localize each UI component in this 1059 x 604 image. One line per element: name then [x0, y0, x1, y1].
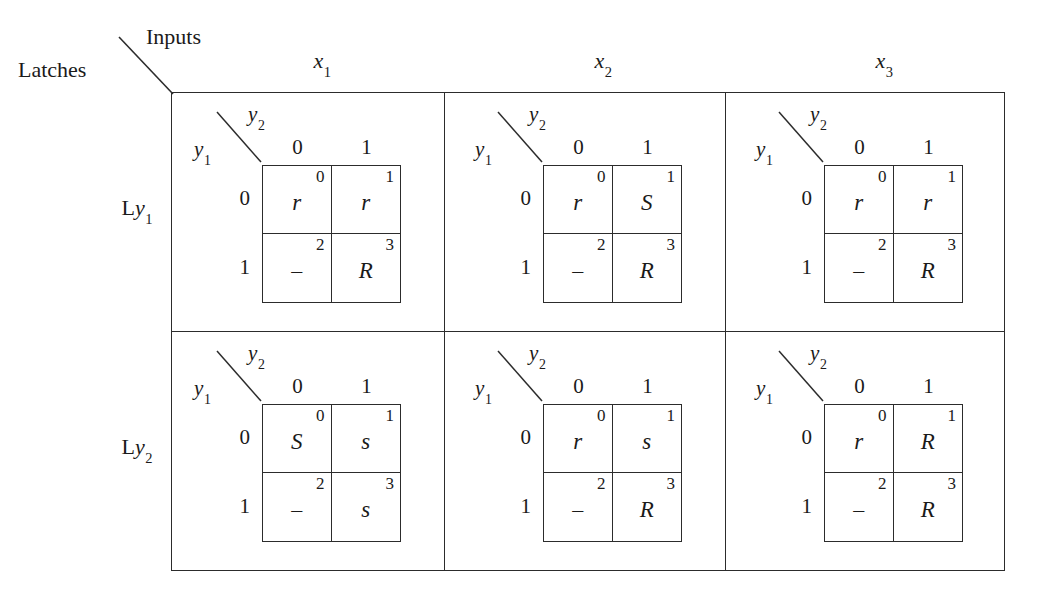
kmap-cell-0[interactable]: 0S: [263, 405, 332, 473]
kmap-cell-1[interactable]: 1S: [613, 166, 682, 234]
kmap-axis-label-y1: y1: [475, 137, 491, 162]
kmap-cell-index: 0: [597, 406, 606, 426]
kmap-cell-index: 3: [386, 474, 395, 494]
kmap-Ly1-x2: y2y101010r1S2–3R: [453, 93, 725, 331]
kmap-cell-index: 1: [386, 406, 395, 426]
row-label-latch-y1-prefix: L: [122, 195, 135, 220]
kmap-Ly1-x1: y2y101010r1r2–3R: [172, 93, 444, 331]
kmap-col-label-1: 1: [332, 135, 401, 160]
kmap-axis-label-y1: y1: [194, 376, 210, 401]
kmap-Ly2-x1: y2y101010S1s2–3s: [172, 332, 444, 570]
row-label-latch-y1-name: y: [135, 195, 145, 220]
kmap-axis-label-y2-sub: 2: [258, 118, 265, 133]
kmap-col-label-0: 0: [263, 374, 332, 399]
kmap-cell-0[interactable]: 0r: [544, 166, 613, 234]
kmap-cell-index: 2: [878, 235, 887, 255]
column-header-x3-sub: 3: [886, 64, 893, 80]
kmap-row-label-0: 0: [200, 425, 250, 450]
kmap-cell-value: –: [825, 497, 893, 523]
kmap-cell-value: R: [894, 258, 963, 284]
kmap-axis-label-y1-sub: 1: [485, 153, 492, 168]
kmap-row-label-1: 1: [200, 494, 250, 519]
row-label-latch-y2-prefix: L: [122, 434, 135, 459]
kmap-axis-label-y2: y2: [529, 102, 545, 127]
kmap-cell-1[interactable]: 1r: [894, 166, 963, 234]
kmap-axis-label-y2-name: y: [810, 341, 819, 365]
kmap-cell-1[interactable]: 1r: [332, 166, 401, 234]
kmap-col-label-1: 1: [613, 135, 682, 160]
kmap-cell-3[interactable]: 3R: [894, 473, 963, 541]
kmap-cell-0[interactable]: 0r: [825, 405, 894, 473]
kmap-row-label-0: 0: [481, 186, 531, 211]
kmap-cell-index: 2: [878, 474, 887, 494]
kmap-cell-value: R: [332, 258, 401, 284]
kmap-Ly1-x3: y2y101010r1r2–3R: [734, 93, 1006, 331]
kmap-axis-label-y1: y1: [475, 376, 491, 401]
row-label-latch-y1: Ly1: [32, 195, 152, 221]
column-header-x3-name: x: [875, 48, 885, 73]
kmap-cell-3[interactable]: 3R: [613, 473, 682, 541]
kmap-row-label-1: 1: [481, 255, 531, 280]
kmap-cell-1[interactable]: 1s: [613, 405, 682, 473]
kmap-cell-index: 1: [667, 167, 676, 187]
kmap-col-label-1: 1: [332, 374, 401, 399]
kmap-row-label-1: 1: [762, 255, 812, 280]
kmap-cell-2[interactable]: 2–: [544, 234, 613, 302]
kmap-cell-value: r: [894, 190, 963, 216]
kmap-axis-label-y1-sub: 1: [766, 392, 773, 407]
kmap-cell-value: –: [544, 258, 612, 284]
kmap-axis-label-y1-name: y: [194, 137, 203, 161]
kmap-cell-value: –: [544, 497, 612, 523]
kmap-cell-index: 3: [667, 235, 676, 255]
kmap-axis-label-y1-name: y: [756, 137, 765, 161]
kmap-row-label-1: 1: [762, 494, 812, 519]
kmap-cell-value: r: [332, 190, 401, 216]
kmap-col-label-0: 0: [825, 374, 894, 399]
kmap-cell-3[interactable]: 3s: [332, 473, 401, 541]
kmap-cell-index: 3: [948, 474, 957, 494]
kmap-Ly2-x2: y2y101010r1s2–3R: [453, 332, 725, 570]
kmap-row-label-0: 0: [762, 186, 812, 211]
row-label-latch-y2: Ly2: [32, 434, 152, 460]
kmap-axis-label-y2-sub: 2: [820, 118, 827, 133]
kmap-cell-2[interactable]: 2–: [544, 473, 613, 541]
kmap-cell-value: s: [332, 497, 401, 523]
kmap-col-label-0: 0: [544, 374, 613, 399]
column-header-x2-name: x: [594, 48, 604, 73]
kmap-cell-index: 3: [948, 235, 957, 255]
kmap-cell-2[interactable]: 2–: [825, 234, 894, 302]
kmap-grid: 0r1s2–3R: [543, 404, 682, 542]
kmap-axis-label-y2-name: y: [248, 341, 257, 365]
kmap-cell-index: 1: [948, 167, 957, 187]
kmap-cell-value: s: [613, 429, 682, 455]
kmap-axis-label-y2: y2: [248, 341, 264, 366]
kmap-cell-0[interactable]: 0r: [263, 166, 332, 234]
kmap-col-label-0: 0: [825, 135, 894, 160]
kmap-cell-0[interactable]: 0r: [825, 166, 894, 234]
row-label-latch-y1-sub: 1: [145, 211, 152, 227]
kmap-cell-1[interactable]: 1s: [332, 405, 401, 473]
kmap-axis-label-y2-name: y: [248, 102, 257, 126]
kmap-axis-label-y1-sub: 1: [204, 153, 211, 168]
kmap-cell-value: R: [613, 497, 682, 523]
kmap-grid: 0S1s2–3s: [262, 404, 401, 542]
kmap-axis-label-y1-name: y: [756, 376, 765, 400]
kmap-cell-1[interactable]: 1R: [894, 405, 963, 473]
kmap-cell-3[interactable]: 3R: [894, 234, 963, 302]
column-header-x2: x2: [543, 48, 663, 74]
kmap-cell-3[interactable]: 3R: [332, 234, 401, 302]
kmap-axis-label-y2-sub: 2: [820, 357, 827, 372]
kmap-cell-value: r: [544, 429, 612, 455]
kmap-cell-2[interactable]: 2–: [263, 473, 332, 541]
kmap-cell-index: 0: [316, 167, 325, 187]
kmap-cell-0[interactable]: 0r: [544, 405, 613, 473]
kmap-cell-3[interactable]: 3R: [613, 234, 682, 302]
row-label-latch-y2-sub: 2: [145, 450, 152, 466]
kmap-grid: 0r1S2–3R: [543, 165, 682, 303]
column-header-x2-sub: 2: [605, 64, 612, 80]
kmap-cell-2[interactable]: 2–: [263, 234, 332, 302]
row-label-latch-y2-name: y: [135, 434, 145, 459]
kmap-cell-2[interactable]: 2–: [825, 473, 894, 541]
karnaugh-map-table: y2y101010r1r2–3Ry2y101010r1S2–3Ry2y10101…: [171, 92, 1005, 571]
kmap-axis-label-y1: y1: [194, 137, 210, 162]
